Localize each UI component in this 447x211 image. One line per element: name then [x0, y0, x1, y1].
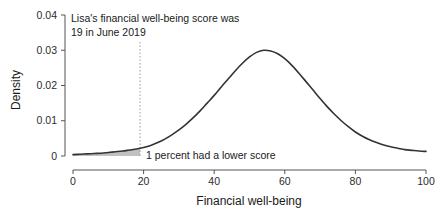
- x-tick-label: 0: [70, 175, 76, 187]
- chart-figure: 00.010.020.030.04 020406080100 Financial…: [0, 0, 447, 211]
- x-axis: 020406080100: [70, 170, 435, 187]
- y-tick-label: 0.02: [37, 79, 58, 91]
- y-axis-title: Density: [9, 70, 23, 110]
- y-tick-label: 0.04: [37, 9, 58, 21]
- lower-score-annotation: 1 percent had a lower score: [146, 149, 276, 161]
- x-axis-title: Financial well-being: [196, 194, 301, 208]
- x-tick-label: 60: [279, 175, 291, 187]
- y-axis: 00.010.020.030.04: [37, 9, 65, 162]
- y-tick-label: 0.03: [37, 44, 58, 56]
- x-tick-label: 100: [417, 175, 435, 187]
- x-tick-label: 40: [208, 175, 220, 187]
- x-tick-label: 80: [350, 175, 362, 187]
- density-plot: 00.010.020.030.04 020406080100 Financial…: [0, 0, 447, 211]
- x-tick-label: 20: [138, 175, 150, 187]
- density-curve: [73, 50, 426, 154]
- y-tick-label: 0: [51, 150, 57, 162]
- score-annotation-line1: Lisa's financial well-being score was: [71, 12, 239, 24]
- y-tick-label: 0.01: [37, 114, 58, 126]
- score-annotation-line2: 19 in June 2019: [71, 26, 146, 38]
